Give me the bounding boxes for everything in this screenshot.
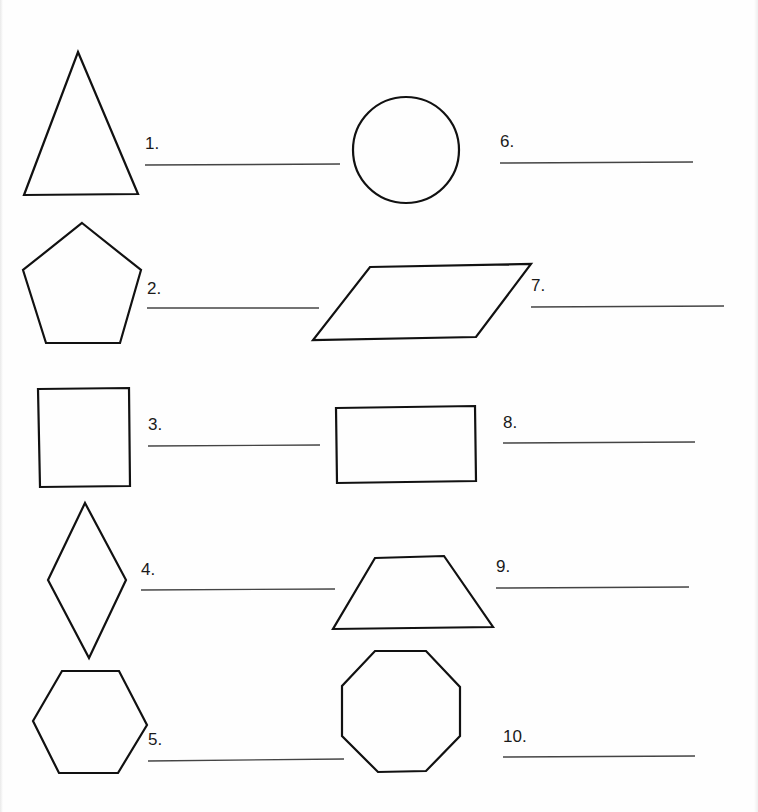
pentagon-shape: [23, 223, 141, 343]
answer-line-6: [500, 162, 693, 163]
item-number-9: 9.: [496, 558, 510, 575]
answer-line-3: [148, 445, 320, 446]
worksheet-page: 1. 2. 3. 4. 5. 6. 7. 8. 9. 10.: [0, 0, 758, 812]
square-shape: [38, 388, 130, 487]
answer-line-5: [148, 759, 344, 761]
item-number-6: 6.: [500, 133, 514, 150]
answer-blank-2[interactable]: [167, 292, 319, 306]
triangle-shape: [24, 52, 138, 195]
item-number-4: 4.: [141, 561, 155, 578]
rectangle-shape: [336, 406, 476, 483]
item-number-8: 8.: [503, 414, 517, 431]
circle-shape: [353, 97, 459, 203]
answer-line-8: [503, 442, 695, 443]
rhombus-shape: [48, 503, 126, 658]
item-number-5: 5.: [148, 731, 162, 748]
answer-blank-10[interactable]: [528, 740, 695, 754]
hexagon-shape: [33, 671, 147, 773]
answer-blank-3[interactable]: [168, 429, 320, 443]
answer-blank-5[interactable]: [168, 744, 344, 758]
answer-blank-1[interactable]: [165, 148, 340, 162]
item-number-1: 1.: [145, 135, 159, 152]
answer-blank-6[interactable]: [520, 146, 693, 160]
answer-line-1: [145, 164, 340, 165]
answer-blank-9[interactable]: [516, 571, 689, 585]
item-number-7: 7.: [531, 277, 545, 294]
answer-line-4: [141, 589, 335, 590]
answer-line-10: [503, 756, 695, 757]
answer-blank-7[interactable]: [551, 290, 724, 304]
answer-blank-8[interactable]: [523, 427, 695, 441]
answer-blank-4[interactable]: [161, 574, 335, 588]
octagon-shape: [342, 651, 460, 772]
trapezoid-shape: [333, 556, 493, 629]
answer-line-7: [531, 306, 724, 307]
item-number-2: 2.: [147, 280, 161, 297]
answer-line-9: [496, 587, 689, 588]
shapes-canvas: [0, 0, 758, 812]
parallelogram-shape: [313, 264, 531, 340]
item-number-3: 3.: [148, 416, 162, 433]
item-number-10: 10.: [503, 728, 527, 745]
